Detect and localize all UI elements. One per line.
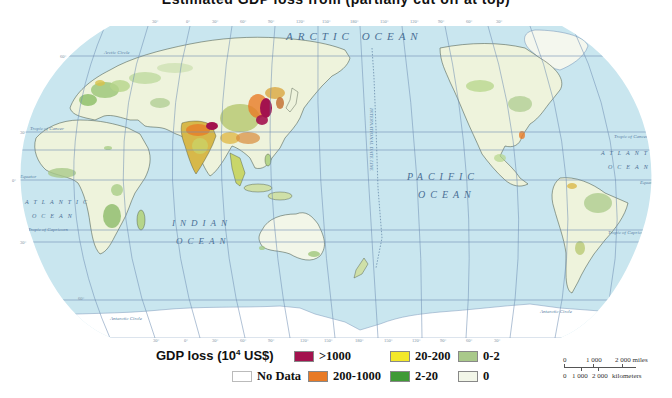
arctic-ocean-label: ARCTIC OCEAN <box>285 30 423 42</box>
svg-text:150°: 150° <box>384 338 393 343</box>
date-line-label: INTERNATIONAL DATE LINE <box>369 107 374 171</box>
svg-text:150°: 150° <box>324 338 333 343</box>
svg-text:0°: 0° <box>186 19 190 24</box>
equator-label-west: Equator <box>19 174 36 179</box>
swatch-20-200 <box>390 351 410 362</box>
madagascar <box>137 210 145 230</box>
swatch-2-20 <box>390 371 410 382</box>
svg-text:30°: 30° <box>494 338 501 343</box>
swatch-200-1000 <box>308 371 328 382</box>
atlantic-ocean-east-label-2: OCEAN <box>608 164 653 170</box>
svg-text:30°: 30° <box>20 240 27 245</box>
swatch-zero <box>458 371 478 382</box>
svg-text:30°: 30° <box>20 130 27 135</box>
legend-item-20-200: 20-200 <box>390 349 450 364</box>
scale-miles-1000: 1 000 <box>586 356 602 364</box>
svg-text:30°: 30° <box>496 19 503 24</box>
atlantic-ocean-west-label-2: OCEAN <box>32 213 77 219</box>
svg-text:90°: 90° <box>268 338 275 343</box>
svg-text:30°: 30° <box>153 338 160 343</box>
swatch-no-data <box>232 371 252 382</box>
svg-text:30°: 30° <box>212 19 219 24</box>
svg-text:90°: 90° <box>438 19 445 24</box>
arctic-circle-label-west: Arctic Circle <box>103 50 130 55</box>
atlantic-ocean-east-label-1: ATLANTIC <box>600 150 668 156</box>
svg-text:0°: 0° <box>184 338 188 343</box>
atlantic-ocean-west-label-1: ATLANTIC <box>24 199 92 205</box>
legend-item-over-1000: >1000 <box>294 349 351 364</box>
legend: GDP loss (104 US$) >1000 20-200 0-2 No D… <box>148 346 528 390</box>
equator-label-east: Equator <box>639 180 656 185</box>
indian-ocean-label-1: INDIAN <box>171 218 232 228</box>
scale-km-2000: 2 000 <box>592 372 608 380</box>
tropic-capricorn-label-east: Tropic of Capricorn <box>608 230 649 235</box>
svg-text:150°: 150° <box>322 19 331 24</box>
svg-text:180°: 180° <box>350 19 359 24</box>
svg-text:120°: 120° <box>296 19 305 24</box>
svg-text:60°: 60° <box>240 338 247 343</box>
svg-text:60°: 60° <box>466 19 473 24</box>
longitude-labels-top: 30° 0° 30° 60° 90° 120° 150° 180° 150° 1… <box>152 19 503 24</box>
legend-item-no-data: No Data <box>232 369 301 384</box>
legend-item-200-1000: 200-1000 <box>308 369 381 384</box>
svg-text:180°: 180° <box>355 338 364 343</box>
legend-title-suffix: US$) <box>240 348 273 363</box>
svg-text:120°: 120° <box>410 19 419 24</box>
scale-km-1000: 1 000 <box>572 372 588 380</box>
longitude-labels-bottom: 30° 0° 30° 60° 90° 120° 150° 180° 150° 1… <box>153 338 501 343</box>
antarctic-circle-label-east: Antarctic Circle <box>539 309 573 314</box>
tropic-cancer-label-east: Tropic of Cancer <box>614 134 648 139</box>
legend-item-2-20: 2-20 <box>390 369 438 384</box>
legend-item-0-2: 0-2 <box>458 349 500 364</box>
scale-km-unit: kilometers <box>612 372 642 380</box>
pacific-ocean-label-2: OCEAN <box>418 189 476 200</box>
svg-text:60°: 60° <box>466 338 473 343</box>
svg-text:120°: 120° <box>300 338 309 343</box>
world-map: INTERNATIONAL DATE LINE ARCTIC OCEAN PAC… <box>0 8 672 343</box>
svg-text:60°: 60° <box>78 296 85 301</box>
scale-line <box>564 367 636 368</box>
svg-text:60°: 60° <box>60 54 67 59</box>
legend-title-prefix: GDP loss (10 <box>156 348 236 363</box>
scale-miles-0: 0 <box>563 356 567 364</box>
svg-text:30°: 30° <box>152 19 159 24</box>
map-title: Estimated GDP loss from (partially cut o… <box>0 0 672 7</box>
pacific-ocean-label-1: PACIFIC <box>406 171 479 182</box>
svg-text:90°: 90° <box>440 338 447 343</box>
svg-text:120°: 120° <box>412 338 421 343</box>
indian-ocean-label-2: OCEAN <box>176 236 231 246</box>
scale-miles-2000: 2 000 miles <box>615 356 648 364</box>
svg-text:60°: 60° <box>240 19 247 24</box>
tropic-cancer-label-west: Tropic of Cancer <box>30 126 64 131</box>
swatch-0-2 <box>458 351 478 362</box>
svg-text:90°: 90° <box>268 19 275 24</box>
scale-bar: 0 1 000 2 000 miles 0 1 000 2 000 kilome… <box>560 352 670 388</box>
scale-km-0: 0 <box>563 372 567 380</box>
swatch-over-1000 <box>294 351 314 362</box>
antarctic-circle-label-west: Antarctic Circle <box>109 316 143 321</box>
legend-item-zero: 0 <box>458 369 489 384</box>
svg-text:0°: 0° <box>12 178 16 183</box>
svg-text:150°: 150° <box>380 19 389 24</box>
tropic-capricorn-label-west: Tropic of Capricorn <box>28 227 69 232</box>
legend-title: GDP loss (104 US$) <box>156 348 274 363</box>
svg-text:30°: 30° <box>212 338 219 343</box>
